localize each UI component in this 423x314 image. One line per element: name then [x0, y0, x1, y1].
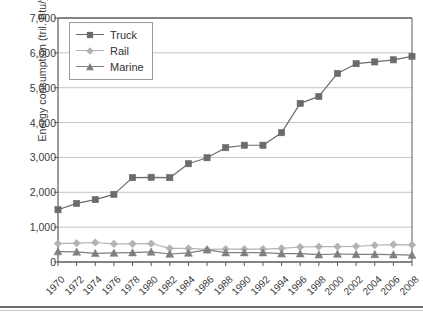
legend-glyph-square [83, 28, 97, 42]
chart-legend: TruckRailMarine [69, 22, 153, 80]
legend-label: Truck [110, 29, 137, 41]
chart-container: Energy consumption (tril. Btu/year) 01,0… [0, 0, 423, 314]
legend-item-truck: Truck [75, 27, 144, 43]
legend-marker-triangle-icon [75, 60, 105, 74]
legend-label: Marine [110, 61, 144, 73]
legend-glyph-triangle [83, 60, 97, 74]
legend-item-rail: Rail [75, 43, 144, 59]
legend-marker-diamond-icon [75, 44, 105, 58]
legend-label: Rail [110, 45, 129, 57]
legend-item-marine: Marine [75, 59, 144, 75]
legend-glyph-diamond [83, 44, 97, 58]
page-divider-rule-secondary [0, 310, 423, 311]
legend-marker-square-icon [75, 28, 105, 42]
page-divider-rule [0, 306, 423, 308]
x-axis-tick-labels: 1970197219741976197819801982198419861988… [0, 0, 423, 314]
